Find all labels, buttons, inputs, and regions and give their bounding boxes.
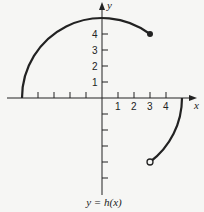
y-tick-label-2: 2 — [92, 61, 98, 72]
function-graph: 1 2 3 4 4 3 2 1 x y y = h(x) — [0, 0, 204, 212]
y-tick-label-3: 3 — [92, 45, 98, 56]
y-axis-label: y — [106, 0, 112, 11]
x-tick-label-1: 1 — [115, 101, 121, 112]
y-tick-label-4: 4 — [92, 29, 98, 40]
graph-caption: y = h(x) — [85, 196, 122, 209]
closed-endpoint-marker — [147, 31, 153, 37]
x-tick-label-4: 4 — [163, 101, 169, 112]
y-tick-label-1: 1 — [92, 77, 98, 88]
x-tick-label-3: 3 — [147, 101, 153, 112]
upper-arc-curve — [22, 18, 150, 98]
x-tick-label-2: 2 — [131, 101, 137, 112]
y-ticks — [102, 34, 108, 178]
x-axis-label: x — [193, 99, 199, 111]
y-axis-arrow-icon — [99, 2, 105, 10]
open-endpoint-marker — [147, 159, 153, 165]
